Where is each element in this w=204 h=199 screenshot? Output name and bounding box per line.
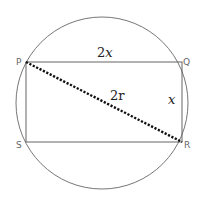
circumscribed-circle [16,17,188,189]
top-coef: 2 [97,45,105,60]
vertex-label-q: Q [183,57,190,67]
vertex-label-r: R [184,140,190,150]
top-var: x [105,45,113,60]
right-side-label: x [168,92,176,107]
diagonal-pr [26,62,182,142]
vertex-label-p: P [16,57,22,67]
vertex-label-s: S [16,140,22,150]
geometry-diagram: P Q R S 2x x 2r [0,0,204,199]
diagonal-label: 2r [110,88,125,103]
top-side-label: 2x [97,45,113,60]
